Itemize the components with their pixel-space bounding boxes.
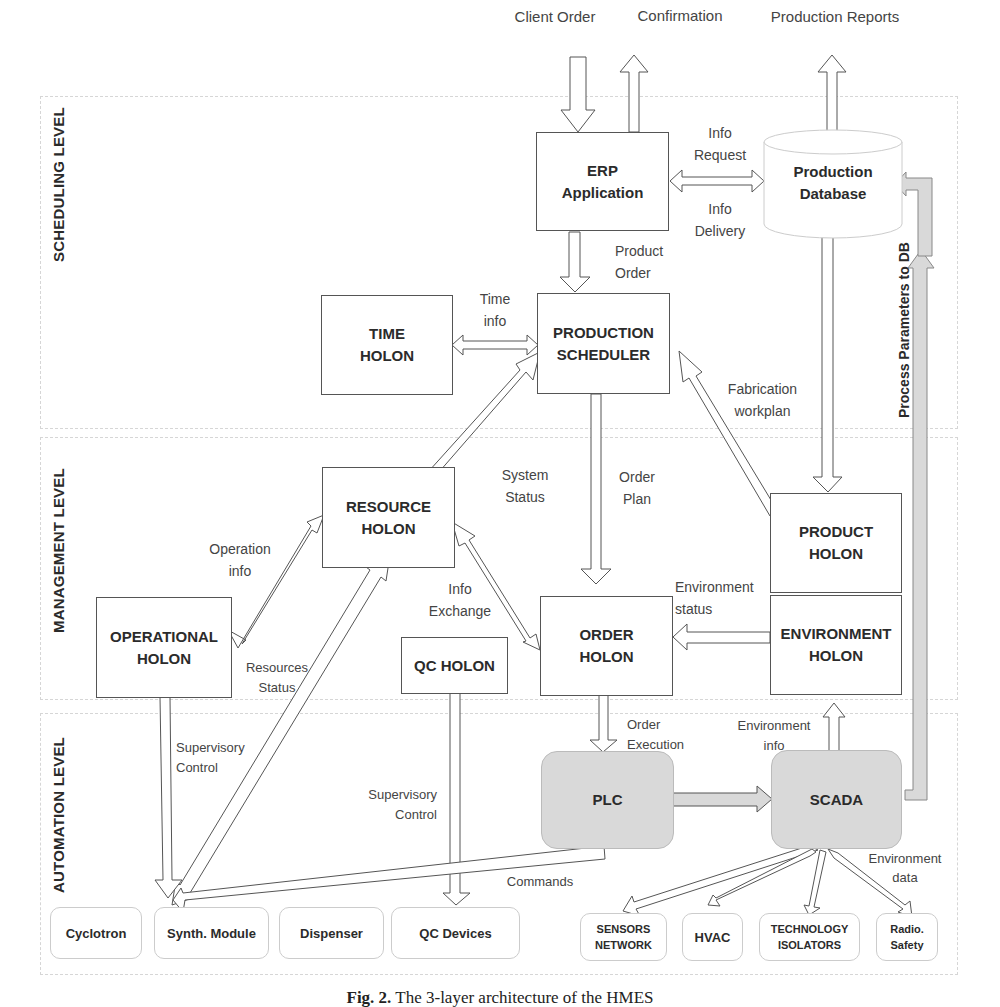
device-dispenser[interactable]: Dispenser	[279, 907, 384, 959]
scada-isolators-arrow	[804, 850, 826, 915]
info-request-label: Info Request	[680, 122, 760, 166]
client-order-label: Client Order	[495, 6, 615, 28]
device-sensors-network[interactable]: SENSORS NETWORK	[580, 913, 667, 961]
fabrication-workplan-label: Fabrication workplan	[710, 378, 815, 422]
environment-info-label: Environment info	[724, 716, 824, 756]
product-order-arrow	[560, 232, 590, 292]
figure-caption: Fig. 2. The 3-layer architecture of the …	[0, 988, 1000, 1007]
db-to-product-holon-arrow	[813, 237, 842, 492]
process-parameters-label: Process Parameters to DB	[896, 242, 912, 418]
info-exchange-erp-db-arrow	[670, 170, 764, 192]
order-plan-label: Order Plan	[612, 466, 662, 510]
order-plan-arrow	[581, 394, 611, 584]
client-order-arrow	[561, 57, 595, 132]
product-holon-box[interactable]: PRODUCT HOLON	[770, 493, 902, 593]
device-synth-module[interactable]: Synth. Module	[154, 907, 269, 959]
order-holon-box[interactable]: ORDER HOLON	[540, 596, 673, 696]
figure-caption-text: The 3-layer architecture of the HMES	[391, 988, 653, 1007]
time-holon-box[interactable]: TIME HOLON	[321, 295, 453, 395]
plc-to-scada-arrow	[673, 786, 772, 812]
supervisory-control-qc-label: Supervisory Control	[347, 785, 437, 825]
confirmation-arrow	[620, 55, 648, 132]
production-reports-arrow	[818, 55, 846, 135]
resource-holon-box[interactable]: RESOURCE HOLON	[322, 467, 455, 568]
system-status-label: System Status	[490, 464, 560, 508]
resources-status-label: Resources Status	[237, 658, 317, 698]
device-radio-safety[interactable]: Radio. Safety	[876, 913, 938, 961]
erp-application-box[interactable]: ERP Application	[536, 132, 669, 231]
environment-status-label: Environment status	[675, 576, 785, 620]
confirmation-label: Confirmation	[620, 5, 740, 27]
environment-data-label: Environment data	[855, 849, 955, 887]
time-info-label: Time info	[465, 288, 525, 332]
info-delivery-label: Info Delivery	[680, 198, 760, 242]
supervisory-control-operational-label: Supervisory Control	[176, 738, 266, 778]
time-info-arrow	[452, 335, 538, 355]
scada-sensors-arrow	[623, 845, 818, 916]
operation-info-label: Operation info	[195, 538, 285, 582]
production-database-label: Production Database	[763, 148, 903, 218]
device-cyclotron[interactable]: Cyclotron	[50, 907, 142, 959]
device-qc-devices[interactable]: QC Devices	[391, 907, 520, 959]
production-database-cylinder[interactable]: Production Database	[763, 128, 903, 240]
supervisory-control-operational-arrow	[155, 697, 182, 898]
product-order-label: Product Order	[615, 240, 695, 284]
environment-holon-box[interactable]: ENVIRONMENT HOLON	[770, 595, 902, 695]
order-execution-label: Order Execution	[627, 715, 707, 755]
order-execution-arrow	[590, 694, 617, 752]
hmes-architecture-diagram: SCHEDULING LEVEL MANAGEMENT LEVEL AUTOMA…	[0, 0, 1000, 1007]
device-hvac[interactable]: HVAC	[682, 913, 743, 961]
scada-box[interactable]: SCADA	[771, 750, 902, 849]
operational-holon-box[interactable]: OPERATIONAL HOLON	[96, 597, 232, 698]
plc-box[interactable]: PLC	[541, 751, 674, 849]
figure-caption-prefix: Fig. 2.	[347, 988, 392, 1007]
production-scheduler-box[interactable]: PRODUCTION SCHEDULER	[537, 293, 670, 394]
qc-holon-box[interactable]: QC HOLON	[401, 637, 508, 694]
device-technology-isolators[interactable]: TECHNOLOGY ISOLATORS	[759, 913, 860, 961]
commands-label: Commands	[500, 871, 580, 893]
production-reports-label: Production Reports	[755, 6, 915, 28]
fabrication-workplan-arrow	[679, 351, 777, 516]
info-exchange-label: Info Exchange	[420, 578, 500, 622]
environment-status-arrow	[673, 624, 770, 650]
environment-info-arrow	[823, 703, 845, 751]
